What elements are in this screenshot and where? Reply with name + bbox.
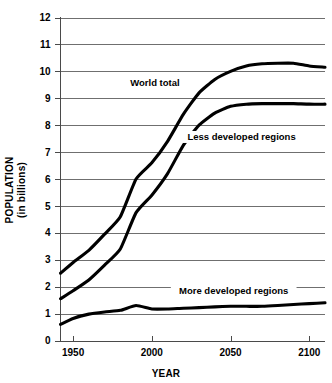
series-label-world-total: World total bbox=[130, 77, 179, 88]
y-tick-label-9: 9 bbox=[45, 93, 51, 104]
y-tick-label-4: 4 bbox=[45, 227, 51, 238]
y-tick-label-5: 5 bbox=[45, 201, 51, 212]
chart-canvas: 0123456789101112 1950200020502100 World … bbox=[0, 0, 332, 383]
series-annotations: World totalLess developed regionsMore de… bbox=[122, 77, 305, 297]
y-tick-label-8: 8 bbox=[45, 120, 51, 131]
x-tick-label-1950: 1950 bbox=[62, 347, 85, 358]
population-line-chart: 0123456789101112 1950200020502100 World … bbox=[0, 0, 332, 383]
x-tick-label-2100: 2100 bbox=[298, 347, 321, 358]
y-tick-label-11: 11 bbox=[40, 39, 51, 50]
y-tick-label-10: 10 bbox=[39, 66, 51, 77]
x-tick-label-2000: 2000 bbox=[141, 347, 164, 358]
y-tick-label-7: 7 bbox=[45, 147, 51, 158]
series-label-more-developed-regions: More developed regions bbox=[179, 285, 288, 296]
x-tick-label-2050: 2050 bbox=[219, 347, 242, 358]
y-tick-label-2: 2 bbox=[45, 281, 51, 292]
x-axis-tick-labels: 1950200020502100 bbox=[62, 347, 321, 358]
series-line-more-developed-regions bbox=[61, 303, 326, 325]
y-tick-label-3: 3 bbox=[45, 254, 51, 265]
y-axis-title-line1: POPULATION bbox=[4, 157, 15, 224]
y-axis-title-line2: (in billions) bbox=[16, 162, 27, 218]
y-tick-label-12: 12 bbox=[39, 12, 51, 23]
series-label-less-developed-regions: Less developed regions bbox=[187, 131, 295, 142]
y-tick-label-1: 1 bbox=[45, 308, 51, 319]
series-line-world-total bbox=[61, 63, 326, 273]
y-axis-tick-labels: 0123456789101112 bbox=[39, 12, 51, 346]
y-tick-label-0: 0 bbox=[45, 335, 51, 346]
y-tick-label-6: 6 bbox=[45, 174, 51, 185]
x-axis-title: YEAR bbox=[152, 368, 181, 379]
